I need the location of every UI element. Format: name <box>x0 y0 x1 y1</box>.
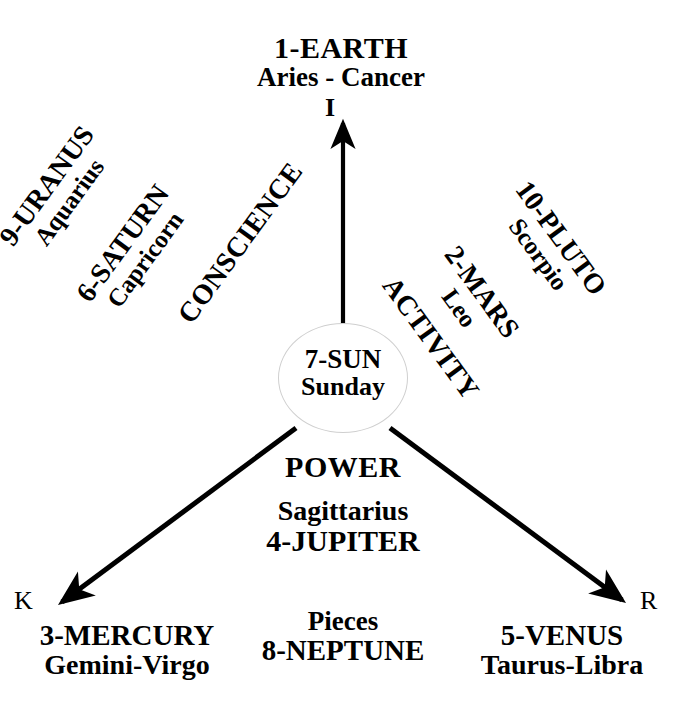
triad-diagram: 1-EARTH Aries - Cancer I 9-URANUS Aquari… <box>0 0 682 713</box>
axis-letter-r: R <box>640 588 657 615</box>
node-earth: 1-EARTH Aries - Cancer <box>201 33 481 91</box>
node-pluto: 10-PLUTO Scorpio <box>489 176 611 316</box>
power-label: POWER <box>253 452 433 483</box>
neptune-sign-label: Pieces <box>253 608 433 636</box>
axis-letter-i: I <box>325 95 335 122</box>
axis-letter-k: K <box>14 588 33 615</box>
venus-signs-label: Taurus-Libra <box>452 651 672 680</box>
jupiter-sign-label: Sagittarius <box>243 497 443 526</box>
node-sun: 7-SUN Sunday <box>278 345 408 401</box>
jupiter-planet-label: 4-JUPITER <box>243 526 443 557</box>
venus-planet-label: 5-VENUS <box>452 621 672 651</box>
node-conscience: CONSCIENCE <box>173 157 308 328</box>
earth-planet-label: 1-EARTH <box>201 33 481 64</box>
mercury-signs-label: Gemini-Virgo <box>12 651 242 680</box>
earth-signs-label: Aries - Cancer <box>201 64 481 92</box>
node-jupiter: Sagittarius 4-JUPITER <box>243 497 443 556</box>
conscience-label: CONSCIENCE <box>173 157 308 328</box>
neptune-planet-label: 8-NEPTUNE <box>253 636 433 666</box>
node-mercury: 3-MERCURY Gemini-Virgo <box>12 621 242 679</box>
sun-planet-label: 7-SUN <box>278 345 408 373</box>
node-venus: 5-VENUS Taurus-Libra <box>452 621 672 679</box>
mercury-planet-label: 3-MERCURY <box>12 621 242 651</box>
sun-day-label: Sunday <box>278 373 408 400</box>
node-saturn: 6-SATURN Capricorn <box>71 180 195 322</box>
node-neptune: Pieces 8-NEPTUNE <box>253 608 433 665</box>
